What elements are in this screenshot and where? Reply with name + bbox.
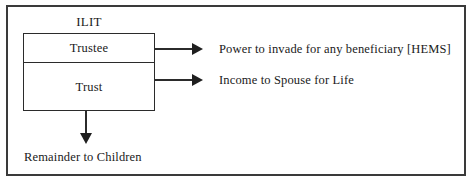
ilit-entity-box: Trustee Trust <box>23 33 155 111</box>
entity-cell-trustee-label: Trustee <box>70 41 108 55</box>
diagram-title-ilit: ILIT <box>23 14 155 29</box>
flow-label-power-to-invade: Power to invade for any beneficiary [HEM… <box>219 42 451 57</box>
arrow-right-icon-income <box>155 74 203 86</box>
arrow-head <box>192 43 203 55</box>
entity-cell-trustee: Trustee <box>24 34 154 63</box>
entity-cell-trust: Trust <box>24 63 154 110</box>
arrow-shaft <box>85 111 87 134</box>
arrow-shaft <box>155 48 193 50</box>
arrow-shaft <box>155 79 193 81</box>
entity-cell-trust-label: Trust <box>76 80 103 94</box>
arrow-down-icon-remainder <box>80 111 92 144</box>
flow-label-remainder-to-children: Remainder to Children <box>24 150 142 165</box>
arrow-head <box>80 133 92 144</box>
diagram-canvas: ILIT Trustee Trust Power to invade for a… <box>0 0 474 184</box>
flow-label-income-to-spouse: Income to Spouse for Life <box>219 73 354 88</box>
arrow-right-icon-power <box>155 43 203 55</box>
arrow-head <box>192 74 203 86</box>
